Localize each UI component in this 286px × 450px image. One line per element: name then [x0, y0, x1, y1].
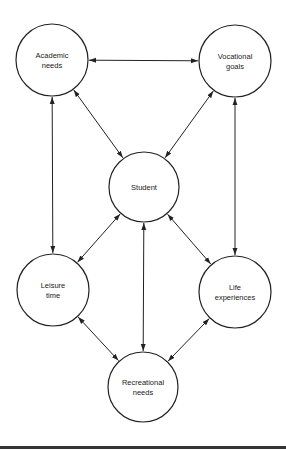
node-life: Lifeexperiences — [199, 256, 271, 328]
node-leisure: Leisuretime — [17, 254, 89, 326]
node-label: Leisure — [41, 281, 66, 290]
node-label: Recreational — [122, 378, 164, 387]
node-label: needs — [133, 388, 154, 397]
node-student: Student — [109, 152, 179, 222]
edge-academic-vocational — [89, 60, 198, 61]
student-needs-diagram: AcademicneedsVocationalgoalsStudentLeisu… — [0, 0, 286, 450]
node-label: Academic — [36, 51, 69, 60]
edge-leisure-recreational — [78, 317, 118, 360]
edge-student-leisure — [77, 214, 120, 262]
node-academic: Academicneeds — [16, 24, 88, 96]
edge-academic-leisure — [52, 97, 53, 253]
node-label: goals — [226, 62, 244, 71]
edge-academic-student — [74, 90, 123, 158]
node-label: Life — [229, 283, 241, 292]
node-recreational: Recreationalneeds — [108, 352, 178, 422]
edge-student-recreational — [143, 223, 144, 351]
node-label: Vocational — [218, 52, 253, 61]
bottom-rule — [0, 446, 286, 449]
edge-student-life — [168, 214, 211, 264]
node-vocational: Vocationalgoals — [199, 25, 271, 97]
node-label: experiences — [215, 293, 256, 302]
edge-life-recreational — [168, 319, 209, 362]
node-label: Student — [131, 183, 158, 192]
node-label: needs — [42, 61, 63, 70]
edge-vocational-student — [165, 91, 213, 158]
node-label: time — [46, 291, 60, 300]
